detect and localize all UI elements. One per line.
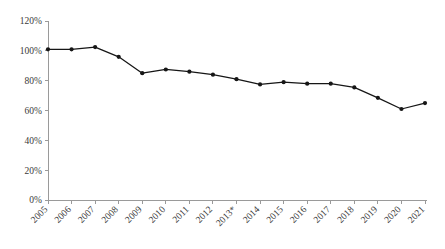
- y-tick-label: 60%: [25, 106, 43, 116]
- data-point: [140, 71, 144, 75]
- y-tick-label: 0%: [29, 195, 42, 205]
- y-tick-label: 120%: [20, 16, 42, 26]
- chart-canvas: 0%20%40%60%80%100%120% 20052006200720082…: [0, 0, 445, 249]
- data-point: [69, 47, 73, 51]
- data-point: [305, 82, 309, 86]
- data-point: [423, 101, 427, 105]
- data-point: [234, 77, 238, 81]
- data-point: [211, 73, 215, 77]
- data-point: [352, 85, 356, 89]
- data-point: [329, 82, 333, 86]
- line-chart: 0%20%40%60%80%100%120% 20052006200720082…: [0, 0, 445, 249]
- data-point: [376, 96, 380, 100]
- data-point: [46, 47, 50, 51]
- data-point: [187, 70, 191, 74]
- data-point: [117, 55, 121, 59]
- data-point: [258, 82, 262, 86]
- data-point: [399, 107, 403, 111]
- y-tick-label: 80%: [25, 76, 43, 86]
- data-point: [282, 80, 286, 84]
- y-tick-label: 20%: [25, 166, 43, 176]
- y-tick-label: 100%: [20, 46, 42, 56]
- data-point: [164, 67, 168, 71]
- y-tick-label: 40%: [25, 136, 43, 146]
- data-point: [93, 45, 97, 49]
